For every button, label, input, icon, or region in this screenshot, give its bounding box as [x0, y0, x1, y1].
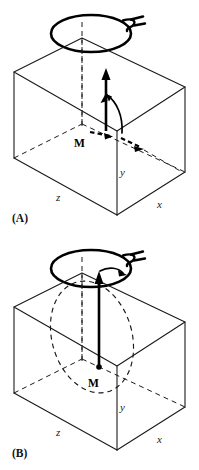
- axis-label-y-panel-a: y: [119, 166, 125, 178]
- axis-label-y-panel-b: y: [119, 401, 125, 413]
- figure-root: M y z x (A): [0, 0, 199, 470]
- panel-a: M y z x (A): [0, 0, 199, 235]
- box-edge-hidden-back-left: [14, 359, 82, 393]
- box-edge-hidden-back-left: [14, 124, 82, 158]
- m-label-panel-b: M: [88, 377, 99, 389]
- coil-lead-tail-b-icon: [134, 24, 145, 26]
- coil-lead-tail-a-icon: [131, 17, 143, 20]
- axis-label-x-panel-b: x: [156, 433, 162, 445]
- panel-label-b: (B): [12, 447, 28, 460]
- m-vector-arrowhead: [102, 68, 111, 80]
- box-edge-bottom-left: [14, 393, 117, 450]
- panel-a-box: [14, 38, 185, 215]
- x-direction-dashed-continuation: [144, 150, 182, 172]
- box-edge-bottom-right: [117, 172, 185, 215]
- axis-label-x-panel-a: x: [156, 198, 162, 210]
- m-label-panel-a: M: [74, 137, 85, 149]
- axis-label-z-panel-a: z: [55, 191, 61, 203]
- tip-rotation-arrowhead: [118, 270, 127, 277]
- panel-a-transverse-components: [90, 132, 182, 172]
- axis-label-z-panel-b: z: [55, 426, 61, 438]
- rf-coil-icon: [51, 15, 131, 52]
- box-edge-bottom-right: [117, 407, 185, 450]
- magnetization-origin-dot: [96, 364, 102, 370]
- m-vector-arrowhead: [95, 271, 104, 284]
- coil-lead-tail-a-icon: [131, 252, 143, 255]
- panel-label-a: (A): [12, 212, 28, 225]
- transverse-dashed-arrowhead-1: [104, 133, 113, 140]
- panel-b: M y z x (B): [0, 235, 199, 470]
- transverse-dashed-arrow-2: [121, 138, 140, 147]
- coil-lead-tail-b-icon: [134, 259, 145, 261]
- box-edge-bottom-left: [14, 158, 117, 215]
